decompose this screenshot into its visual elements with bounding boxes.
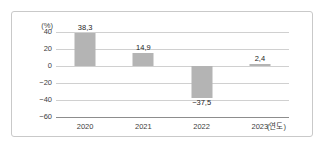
y-tick-label: −60 xyxy=(39,113,52,121)
gridline-0 xyxy=(56,66,289,67)
bar-value-label-2022: −37,5 xyxy=(192,99,211,107)
chart-frame: (%) (연도) 40200−20−40−6038,3202014,92021−… xyxy=(11,11,313,137)
gridline-neg20 xyxy=(56,83,289,84)
bar-2022[interactable] xyxy=(191,66,212,98)
x-tick-label-2021: 2021 xyxy=(135,123,152,131)
y-tick-label: −40 xyxy=(39,96,52,104)
y-tick-label: 0 xyxy=(48,62,52,70)
y-tick-label: −20 xyxy=(39,79,52,87)
bar-2020[interactable] xyxy=(75,33,96,66)
bar-value-label-2023: 2,4 xyxy=(255,55,265,63)
y-tick-label: 40 xyxy=(44,28,52,36)
bar-2023[interactable] xyxy=(249,64,270,66)
bar-value-label-2021: 14,9 xyxy=(136,44,151,52)
x-axis-title: (연도) xyxy=(267,123,286,131)
plot-area: (연도) 40200−20−40−6038,3202014,92021−37,5… xyxy=(56,32,289,117)
x-tick-label-2022: 2022 xyxy=(193,123,210,131)
x-tick-label-2020: 2020 xyxy=(77,123,94,131)
y-tick-label: 20 xyxy=(44,45,52,53)
gridline-neg60 xyxy=(56,117,289,118)
x-tick-label-2023: 2023 xyxy=(252,123,269,131)
bar-value-label-2020: 38,3 xyxy=(78,24,93,32)
gridline-neg40 xyxy=(56,100,289,101)
bar-2021[interactable] xyxy=(133,53,154,66)
